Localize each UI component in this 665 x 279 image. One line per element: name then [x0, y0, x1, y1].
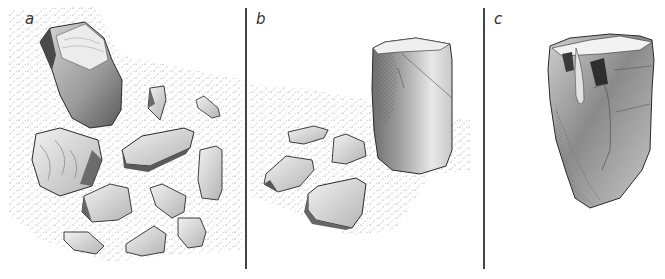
lithic-illustration-figure: a b c [0, 0, 665, 279]
panel-a-flake [198, 146, 222, 200]
illustration-artwork [0, 0, 665, 279]
panel-divider-ab [245, 8, 247, 269]
panel-divider-bc [483, 8, 485, 269]
panel-b-artwork [250, 38, 470, 236]
panel-label-a: a [25, 12, 34, 27]
panel-a-artwork [8, 6, 242, 262]
panel-label-c: c [494, 12, 502, 27]
panel-c-artwork [548, 34, 654, 208]
panel-label-b: b [256, 12, 266, 27]
